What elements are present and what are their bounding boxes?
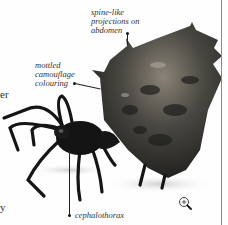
page-text-fragment: y: [0, 201, 6, 213]
leader-dot: [68, 214, 71, 217]
label-cephalothorax: cephalothorax: [75, 211, 124, 220]
page-text-fragment: er: [0, 88, 9, 100]
magnifier-plus-icon[interactable]: [178, 196, 194, 212]
label-spines: spine-like projections on abdomen: [91, 8, 140, 35]
leader-line: [127, 33, 128, 45]
label-colouring: mottled camouflage colouring: [35, 61, 75, 88]
book-page: er y spine-like projections on abdomen m…: [0, 0, 228, 225]
leader-line: [69, 150, 70, 215]
page-divider: [221, 0, 222, 225]
